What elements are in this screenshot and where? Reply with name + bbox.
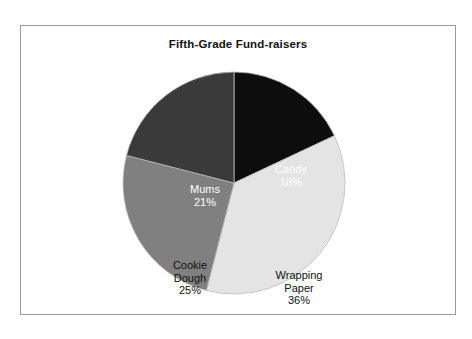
pie-svg [122, 71, 346, 295]
pie-chart: Candy 18% Wrapping Paper 36% Cookie Doug… [122, 71, 346, 295]
chart-frame: Fifth-Grade Fund-raisers Candy 18% Wrapp… [20, 25, 456, 315]
chart-title: Fifth-Grade Fund-raisers [21, 38, 455, 50]
